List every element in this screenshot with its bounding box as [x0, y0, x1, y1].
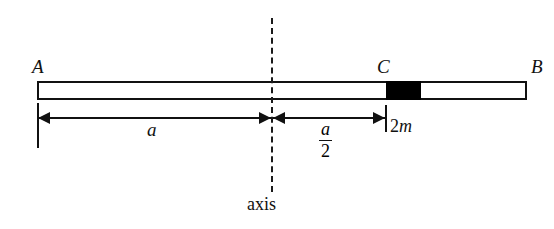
label-axis-caption: axis — [247, 195, 276, 213]
label-mass-2m: 2m — [390, 117, 412, 135]
mass-symbol: m — [399, 116, 412, 136]
fraction-numerator: a — [318, 120, 333, 140]
dimension-tick-left — [37, 103, 39, 148]
arrowhead-right-icon — [259, 112, 271, 124]
label-point-c: C — [377, 57, 390, 76]
rod-bar — [37, 81, 527, 100]
label-distance-a-over-2: a 2 — [318, 120, 333, 161]
fraction-denominator: 2 — [318, 141, 333, 161]
arrowhead-left-icon — [38, 112, 50, 124]
label-point-a: A — [32, 57, 44, 76]
point-mass-block — [386, 81, 421, 100]
mass-value: 2 — [390, 116, 399, 136]
rotation-axis-dashed-line — [271, 18, 273, 192]
label-point-b: B — [531, 57, 543, 76]
rotating-rod-diagram: A C B a a 2 2m axis — [0, 0, 554, 229]
arrowhead-left-icon — [273, 112, 285, 124]
label-distance-a: a — [147, 120, 157, 139]
arrowhead-right-icon — [373, 112, 385, 124]
dimension-tick-at-c — [385, 105, 387, 132]
